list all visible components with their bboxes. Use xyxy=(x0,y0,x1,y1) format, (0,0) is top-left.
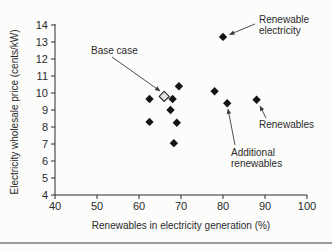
data-point-marker xyxy=(252,96,260,104)
y-tick-label: 8 xyxy=(42,121,48,133)
data-point-marker xyxy=(168,95,176,103)
additional-renewables-label: Additional xyxy=(231,147,275,158)
base-case-arrow xyxy=(112,57,160,91)
data-points-layer xyxy=(145,33,260,148)
y-axis-title: Electricity wholesale price (cents/kW) xyxy=(9,29,20,194)
data-point-marker xyxy=(223,99,231,107)
data-point-marker xyxy=(145,118,153,126)
x-axis-title: Renewables in electricity generation (%) xyxy=(92,220,270,231)
y-tick-label: 10 xyxy=(36,87,48,99)
data-point-marker xyxy=(145,95,153,103)
renewables-arrow xyxy=(260,106,266,118)
y-tick-label: 4 xyxy=(42,189,48,201)
y-tick-label: 12 xyxy=(36,53,48,65)
data-point-marker xyxy=(170,139,178,147)
base-case-label: Base case xyxy=(91,45,138,56)
x-tick-label: 40 xyxy=(49,200,61,212)
data-point-marker xyxy=(210,87,218,95)
y-tick-label: 14 xyxy=(36,19,48,31)
x-tick-label: 80 xyxy=(217,200,229,212)
y-tick-label: 11 xyxy=(37,70,48,82)
y-tick-label: 6 xyxy=(42,155,48,167)
base-case-point-layer xyxy=(159,91,169,101)
y-tick-label: 7 xyxy=(42,138,48,150)
y-tick-label: 5 xyxy=(42,172,48,184)
y-tick-label: 13 xyxy=(36,36,48,48)
data-point-marker xyxy=(166,106,174,114)
x-tick-label: 70 xyxy=(175,200,187,212)
data-point-marker xyxy=(219,33,227,41)
additional-renewables-label: renewables xyxy=(231,158,282,169)
figure-page: 4567891011121314405060708090100 Base cas… xyxy=(0,0,332,250)
x-tick-label: 90 xyxy=(259,200,271,212)
annotations-layer: Base caseRenewableelectricityRenewablesA… xyxy=(91,14,314,169)
data-point-marker xyxy=(175,82,183,90)
scatter-chart: 4567891011121314405060708090100 Base cas… xyxy=(0,0,332,250)
additional-renewables-arrow xyxy=(228,109,235,145)
x-tick-label: 60 xyxy=(133,200,145,212)
renewable-electricity-label: Renewable xyxy=(259,14,309,25)
x-tick-label: 50 xyxy=(91,200,103,212)
base-case-marker xyxy=(159,91,169,101)
renewables-label: Renewables xyxy=(259,119,314,130)
x-tick-label: 100 xyxy=(298,200,316,212)
data-point-marker xyxy=(173,119,181,127)
axes: 4567891011121314405060708090100 xyxy=(36,19,316,212)
page-rule-line xyxy=(0,242,332,244)
y-tick-label: 9 xyxy=(42,104,48,116)
renewable-electricity-label: electricity xyxy=(259,25,301,36)
renewable-electricity-arrow xyxy=(230,24,256,35)
